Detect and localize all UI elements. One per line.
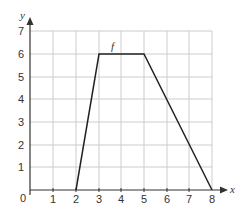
svg-text:2: 2 xyxy=(73,193,79,205)
svg-text:5: 5 xyxy=(18,71,24,83)
svg-text:7: 7 xyxy=(186,193,192,205)
svg-text:6: 6 xyxy=(164,193,170,205)
svg-text:8: 8 xyxy=(209,193,215,205)
y-axis-arrow-icon xyxy=(27,17,34,25)
x-axis-arrow-icon xyxy=(220,187,228,194)
series-f-label: f xyxy=(111,40,116,52)
svg-text:1: 1 xyxy=(18,161,24,173)
origin-label: 0 xyxy=(20,192,26,204)
svg-text:4: 4 xyxy=(118,193,124,205)
svg-text:1: 1 xyxy=(50,193,56,205)
svg-text:6: 6 xyxy=(18,48,24,60)
grid xyxy=(30,31,212,190)
svg-text:3: 3 xyxy=(18,116,24,128)
chart: 1 2 3 4 5 6 7 8 0 1 2 3 4 5 6 7 x y f xyxy=(0,0,247,219)
svg-text:4: 4 xyxy=(18,93,24,105)
axes xyxy=(30,22,222,195)
svg-text:3: 3 xyxy=(96,193,102,205)
y-axis-label: y xyxy=(19,9,25,21)
y-tick-labels: 1 2 3 4 5 6 7 xyxy=(18,25,24,173)
x-tick-labels: 1 2 3 4 5 6 7 8 xyxy=(50,193,215,205)
svg-text:2: 2 xyxy=(18,139,24,151)
svg-text:5: 5 xyxy=(141,193,147,205)
svg-text:7: 7 xyxy=(18,25,24,37)
x-axis-label: x xyxy=(229,183,235,195)
